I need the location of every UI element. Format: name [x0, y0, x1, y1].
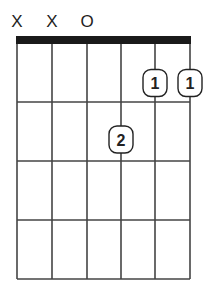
string-marker-muted: X: [46, 12, 57, 31]
string-marker-muted: X: [11, 12, 22, 31]
finger-number: 1: [151, 75, 160, 92]
nut: [16, 36, 191, 44]
finger-number: 1: [186, 75, 195, 92]
string-marker-open: O: [80, 12, 93, 31]
chord-diagram: XXO112: [0, 0, 215, 294]
finger-number: 2: [117, 132, 126, 149]
